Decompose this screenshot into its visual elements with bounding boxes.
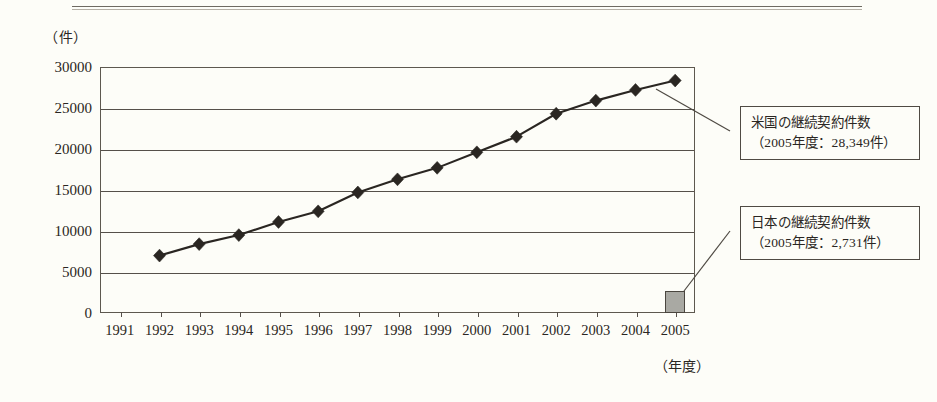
y-tick-label: 10000 xyxy=(55,223,93,240)
x-tick-label: 1996 xyxy=(304,322,333,339)
japan-callout: 日本の継続契約件数 （2005年度：2,731件） xyxy=(740,206,920,260)
x-tick-label: 2004 xyxy=(621,322,650,339)
title-rule-top xyxy=(72,6,862,7)
series-line xyxy=(160,81,676,256)
x-tick-label: 1992 xyxy=(145,322,174,339)
x-tick-label: 1999 xyxy=(423,322,452,339)
y-tick-label: 5000 xyxy=(62,264,92,281)
x-axis-unit-label: （年度） xyxy=(654,355,710,375)
diamond-marker xyxy=(352,186,364,199)
x-tick-label: 2000 xyxy=(462,322,491,339)
x-tick-label: 1991 xyxy=(105,322,134,339)
japan-callout-line2: （2005年度：2,731件） xyxy=(751,233,909,253)
x-tick-label: 2002 xyxy=(542,322,571,339)
y-axis-unit-label: （件） xyxy=(44,26,88,46)
x-tick-label: 1994 xyxy=(224,322,253,339)
y-tick-label: 30000 xyxy=(55,59,93,76)
y-tick-label: 20000 xyxy=(55,141,93,158)
y-axis-tick-labels: 300002500020000150001000050000 xyxy=(0,67,92,313)
diamond-marker xyxy=(471,146,483,159)
y-tick-label: 0 xyxy=(85,305,93,322)
chart-page: （件） 300002500020000150001000050000 19911… xyxy=(0,0,937,402)
x-tick-label: 1995 xyxy=(264,322,293,339)
diamond-marker xyxy=(312,205,324,218)
diamond-marker xyxy=(193,238,205,251)
x-tick-label: 2005 xyxy=(661,322,690,339)
x-tick-label: 2003 xyxy=(581,322,610,339)
diamond-marker xyxy=(154,249,166,262)
x-tick-label: 1997 xyxy=(343,322,372,339)
y-tick-label: 25000 xyxy=(55,100,93,117)
us-callout: 米国の継続契約件数 （2005年度：28,349件） xyxy=(740,106,920,160)
diamond-marker xyxy=(233,229,245,242)
x-tick-label: 2001 xyxy=(502,322,531,339)
y-tick-label: 15000 xyxy=(55,182,93,199)
japan-callout-line1: 日本の継続契約件数 xyxy=(751,213,909,233)
diamond-marker xyxy=(273,216,285,229)
diamond-marker xyxy=(630,84,642,97)
us-callout-line2: （2005年度：28,349件） xyxy=(751,133,909,153)
japan-bar-2005 xyxy=(665,291,685,313)
line-series-us xyxy=(100,67,695,313)
diamond-marker xyxy=(511,130,523,143)
x-tick-label: 1998 xyxy=(383,322,412,339)
diamond-marker xyxy=(669,74,681,87)
title-rule-bottom xyxy=(72,9,862,10)
diamond-marker xyxy=(431,161,443,174)
diamond-marker xyxy=(392,173,404,186)
diamond-marker xyxy=(550,107,562,120)
us-callout-line1: 米国の継続契約件数 xyxy=(751,113,909,133)
diamond-marker xyxy=(590,94,602,107)
x-tick-label: 1993 xyxy=(185,322,214,339)
